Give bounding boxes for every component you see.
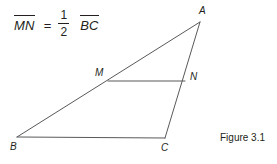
vertex-label-b: B <box>10 142 17 152</box>
segment-bc-line <box>17 137 165 138</box>
figure-caption: Figure 3.1 <box>220 133 265 143</box>
figure-page: MN = 1 2 BC A B C M N Figure 3.1 <box>0 0 277 164</box>
vertex-label-c: C <box>161 143 168 153</box>
vertex-label-m: M <box>95 68 103 78</box>
segment-ab-line <box>17 22 200 137</box>
vertex-label-n: N <box>190 72 197 82</box>
vertex-label-a: A <box>199 6 206 16</box>
